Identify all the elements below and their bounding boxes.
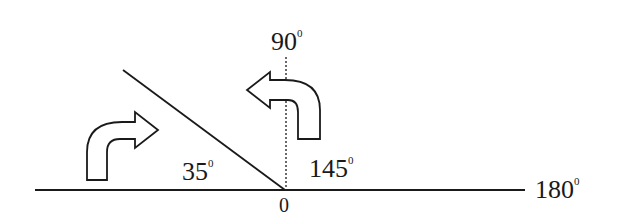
label-145: 1450 [309, 154, 354, 183]
label-35: 350 [182, 157, 214, 186]
label-90: 900 [271, 27, 303, 56]
label-origin: 0 [279, 194, 289, 216]
angle-diagram: 900 350 1450 1800 0 [0, 0, 617, 220]
bent-up-right-arrow-icon [87, 112, 158, 180]
label-180: 1800 [535, 175, 580, 204]
bent-up-left-arrow-icon [247, 72, 320, 139]
